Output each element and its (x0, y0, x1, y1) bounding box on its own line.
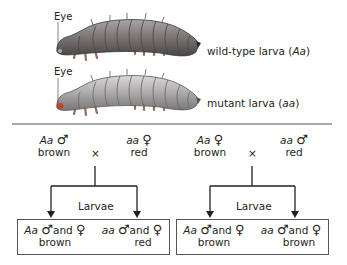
right-offspring-box: Aa ♂and ♀ brown aa ♂and ♀ brown (176, 219, 329, 255)
offspring-right-2: aa ♂and ♀ brown (257, 224, 325, 248)
offspring-left-1: Aa ♂and ♀ brown (21, 224, 89, 248)
female-symbol-icon: ♀ (76, 222, 86, 237)
male-symbol-icon: ♂ (277, 222, 289, 237)
male-symbol-icon: ♂ (41, 222, 53, 237)
wild-type-caption: wild-type larva (Aa) (207, 45, 310, 57)
female-symbol-icon: ♀ (153, 222, 163, 237)
left-parent-male: Aa ♂ brown (34, 134, 74, 158)
cross-symbol-left: × (91, 147, 100, 159)
offspring-right-1: Aa ♂and ♀ brown (180, 224, 248, 248)
wild-type-larva-illustration (57, 13, 201, 60)
larvae-label-left: Larvae (78, 200, 114, 212)
larvae-label-right: Larvae (236, 200, 272, 212)
left-parent-female: aa ♀ red (124, 134, 154, 158)
mutant-larva-illustration (57, 69, 202, 115)
male-symbol-icon: ♂ (118, 222, 130, 237)
right-parent-male: aa ♂ red (279, 134, 309, 158)
male-symbol-icon: ♂ (57, 132, 69, 147)
eye-label-wild-type: Eye (54, 11, 72, 23)
female-symbol-icon: ♀ (142, 132, 152, 147)
male-symbol-icon: ♂ (296, 132, 308, 147)
female-symbol-icon: ♀ (312, 222, 322, 237)
cross-symbol-right: × (248, 147, 257, 159)
male-symbol-icon: ♂ (200, 222, 212, 237)
female-symbol-icon: ♀ (214, 132, 224, 147)
eye-label-mutant: Eye (54, 66, 72, 78)
female-symbol-icon: ♀ (235, 222, 245, 237)
left-offspring-box: Aa ♂and ♀ brown aa ♂and ♀ red (17, 219, 170, 255)
mutant-caption: mutant larva (aa) (207, 97, 299, 109)
offspring-left-2: aa ♂and ♀ red (98, 224, 166, 248)
right-parent-female: Aa ♀ brown (190, 134, 230, 158)
